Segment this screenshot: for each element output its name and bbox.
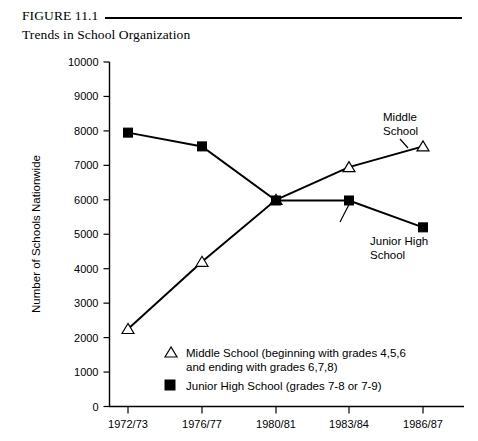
- data-point-filled-square: [124, 128, 133, 137]
- data-point-filled-square: [419, 223, 428, 232]
- data-point-filled-square: [198, 142, 207, 151]
- x-axis-ticks: 1972/731976/771980/811983/841986/87: [108, 407, 443, 430]
- series-markers-junior-high: [124, 128, 428, 232]
- y-tick-label: 4000: [74, 263, 98, 275]
- y-tick-label: 7000: [74, 159, 98, 171]
- annotation-middle-school: Middle School: [383, 111, 418, 137]
- y-tick-label: 9000: [74, 90, 98, 102]
- y-axis-ticks: 0100020003000400050006000700080009000100…: [68, 56, 110, 413]
- y-tick-label: 1000: [74, 366, 98, 378]
- y-tick-label: 5000: [74, 228, 98, 240]
- y-axis-title: Number of Schools Nationwide: [30, 155, 42, 313]
- line-chart: 0100020003000400050006000700080009000100…: [0, 0, 478, 441]
- series-line-junior-high: [128, 133, 423, 228]
- annotation-junior-high-line1: Junior High: [370, 235, 428, 247]
- legend-open-triangle-icon: [165, 347, 177, 357]
- x-tick-label: 1980/81: [256, 418, 296, 430]
- x-tick-label: 1983/84: [329, 418, 369, 430]
- chart-container: 0100020003000400050006000700080009000100…: [0, 0, 478, 441]
- leader-line-middle-school: [400, 139, 408, 148]
- leader-line-junior-high: [340, 204, 349, 222]
- y-tick-label: 0: [92, 401, 98, 413]
- legend-junior-high-line1: Junior High School (grades 7-8 or 7-9): [186, 380, 382, 392]
- y-tick-label: 10000: [68, 56, 99, 68]
- annotation-junior-high: Junior High School: [370, 235, 428, 261]
- y-tick-label: 6000: [74, 194, 98, 206]
- x-tick-label: 1986/87: [403, 418, 443, 430]
- annotation-junior-high-line2: School: [370, 249, 405, 261]
- legend-filled-square-icon: [165, 380, 175, 390]
- annotation-middle-school-line2: School: [383, 125, 418, 137]
- annotation-middle-school-line1: Middle: [383, 111, 417, 123]
- y-tick-label: 3000: [74, 297, 98, 309]
- data-point-open-triangle: [417, 141, 429, 151]
- legend-middle-school-line2: and ending with grades 6,7,8): [186, 361, 338, 373]
- data-point-filled-square: [272, 196, 281, 205]
- data-point-filled-square: [345, 196, 354, 205]
- x-tick-label: 1972/73: [108, 418, 148, 430]
- x-tick-label: 1976/77: [182, 418, 222, 430]
- chart-legend: Middle School (beginning with grades 4,5…: [165, 347, 406, 392]
- y-tick-label: 2000: [74, 332, 98, 344]
- y-tick-label: 8000: [74, 125, 98, 137]
- legend-middle-school-line1: Middle School (beginning with grades 4,5…: [186, 347, 406, 359]
